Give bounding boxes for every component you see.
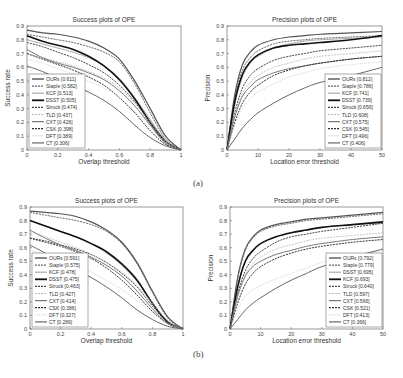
y-tick-label: 0.3 [19,285,27,291]
y-axis-label: Success rate [7,249,14,287]
legend-label: KCF [0.693] [343,276,370,282]
y-tick-label: 0.1 [19,312,27,318]
legend-label: Staple [0.575] [49,262,80,268]
legend-label: DFT [0.413] [343,312,370,318]
legend-label: DSST [0.739] [342,97,373,103]
legend-label: DSST [0.475] [49,276,80,282]
x-tick-label: 40 [349,331,355,337]
y-tick-label: 0.4 [19,272,27,278]
figure: Success plots of OPE00.20.40.60.8100.10.… [0,0,403,378]
x-tick-label: 0.8 [146,152,154,158]
y-axis-label: Success rate [4,69,11,107]
legend-label: OURs [0.792] [343,255,374,261]
chart-b-precision: Precision plots of OPE0102030405000.10.2… [207,197,386,344]
y-tick-label: 0.5 [219,258,227,264]
legend-label: CSK [0.521] [343,305,371,311]
x-tick-label: 1 [179,152,182,158]
chart-b-success: Success plots of OPE00.20.40.60.8100.10.… [7,197,185,345]
x-tick-label: 0 [28,331,31,337]
y-tick-label: 0.8 [216,37,224,43]
legend-label: Staple [0.582] [46,83,77,89]
chart-a-success: Success plots of OPE00.20.40.60.8100.10.… [4,16,183,166]
y-tick-label: 0.6 [19,245,27,251]
y-tick-label: 0.2 [19,299,27,305]
y-tick-label: 0.5 [16,78,24,84]
legend: OURs [0.611]Staple [0.582]KCF [0.513]DSS… [29,74,85,148]
legend: OURs [0.591]Staple [0.575]KCF [0.478]DSS… [32,253,88,327]
legend-label: CT [0.306] [46,140,70,146]
x-tick-label: 0.8 [149,331,157,337]
legend-label: CXT [0.414] [49,298,76,304]
legend-label: Struck [0.463] [49,283,80,289]
legend: OURs [0.812]Staple [0.786]KCF [0.741]DSS… [325,74,381,148]
legend-label: OURs [0.591] [49,255,80,261]
legend-label: DFT [0.496] [342,133,369,139]
legend-label: TLD [0.437] [46,112,73,118]
y-tick-label: 0.8 [219,218,227,224]
y-tick-label: 0.2 [16,119,24,125]
y-tick-label: 0.6 [219,245,227,251]
x-tick-label: 50 [379,152,385,158]
legend-label: CSK [0.386] [49,305,77,311]
legend-label: CT [0.406] [342,140,366,146]
x-tick-label: 10 [255,152,261,158]
legend-label: CXT [0.426] [46,119,73,125]
x-tick-label: 0 [225,152,228,158]
y-tick-label: 0.1 [216,133,224,139]
y-tick-label: 0.1 [16,133,24,139]
y-tick-label: 0.6 [16,64,24,70]
y-tick-label: 0.1 [219,312,227,318]
y-tick-label: 0.3 [219,285,227,291]
x-axis-label: Overlap threshold [78,158,130,166]
y-axis-label: Precision [204,74,211,101]
y-tick-label: 0 [221,147,224,153]
legend-label: DFT [0.327] [49,312,76,318]
y-tick-label: 0.7 [16,51,24,57]
y-tick-label: 0.8 [16,37,24,43]
legend-label: DSST [0.505] [46,97,77,103]
legend-label: KCF [0.478] [49,269,76,275]
y-tick-label: 0.4 [16,92,24,98]
legend-label: Staple [0.779] [343,262,374,268]
y-tick-label: 0.3 [16,106,24,112]
caption-b: (b) [193,349,204,359]
x-tick-label: 0 [25,152,28,158]
y-tick-label: 0.4 [216,92,224,98]
y-tick-label: 0.6 [216,64,224,70]
y-tick-label: 0.5 [19,258,27,264]
legend-label: DFT [0.389] [46,133,73,139]
legend-label: OURs [0.812] [342,76,373,82]
y-tick-label: 0.8 [19,218,27,224]
x-tick-label: 40 [348,152,354,158]
chart-title: Success plots of OPE [73,16,137,24]
x-tick-label: 10 [258,331,264,337]
y-tick-label: 0.5 [216,78,224,84]
caption-a: (a) [193,178,203,188]
y-tick-label: 0.2 [219,299,227,305]
y-tick-label: 0.9 [219,204,227,210]
legend-label: TLD [0.597] [343,291,370,297]
chart-title: Precision plots of OPE [274,197,340,205]
legend: OURs [0.792]Staple [0.779]DSST [0.695]KC… [326,253,382,327]
legend-label: CT [0.289] [49,319,73,325]
y-tick-label: 0.4 [219,272,227,278]
y-axis-label: Precision [207,254,214,281]
legend-label: TLD [0.427] [49,291,76,297]
y-tick-label: 0.9 [216,23,224,29]
y-tick-label: 0 [21,147,24,153]
legend-label: KCF [0.513] [46,90,73,96]
x-tick-label: 0 [228,331,231,337]
chart-a-precision: Precision plots of OPE0102030405000.10.2… [204,16,385,165]
y-tick-label: 0.2 [216,119,224,125]
legend-label: Struck [0.656] [342,104,373,110]
chart-title: Success plots of OPE [75,197,139,205]
legend-label: KCF [0.741] [342,90,369,96]
y-tick-label: 0 [224,326,227,332]
legend-label: CT [0.366] [343,319,367,325]
y-tick-label: 0.7 [219,231,227,237]
legend-label: OURs [0.611] [46,76,77,82]
x-tick-label: 0.2 [57,331,65,337]
y-tick-label: 0.9 [16,23,24,29]
legend-label: TLD [0.608] [342,112,369,118]
legend-label: Struck [0.474] [46,104,77,110]
